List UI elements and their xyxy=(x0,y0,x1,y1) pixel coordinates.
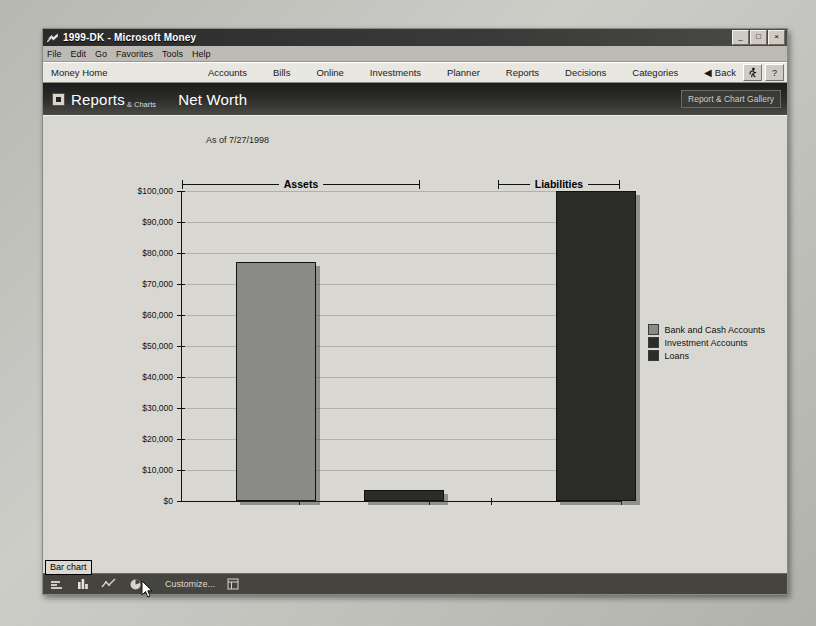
x-axis-tick xyxy=(491,498,492,505)
legend-swatch-icon xyxy=(648,337,659,348)
report-table-icon[interactable] xyxy=(225,578,241,591)
bar-chart-glyph xyxy=(50,579,64,590)
nav-decisions[interactable]: Decisions xyxy=(565,67,606,78)
chart-subtitle: As of 7/27/1998 xyxy=(206,135,269,145)
menu-help[interactable]: Help xyxy=(192,49,211,59)
y-axis-tick xyxy=(177,284,185,285)
close-button[interactable]: × xyxy=(768,30,785,45)
nav-reports[interactable]: Reports xyxy=(506,67,539,78)
menu-file[interactable]: File xyxy=(47,49,62,59)
nav-online[interactable]: Online xyxy=(316,67,343,78)
nav-investments[interactable]: Investments xyxy=(370,67,421,78)
y-axis-label: $50,000 xyxy=(103,341,173,351)
minimize-button[interactable]: _ xyxy=(732,30,749,45)
chart-legend: Bank and Cash AccountsInvestment Account… xyxy=(648,324,765,363)
y-axis-tick xyxy=(177,501,185,502)
y-axis-tick xyxy=(177,377,185,378)
group-label-liabilities: Liabilities xyxy=(530,178,588,190)
y-axis-label: $10,000 xyxy=(103,465,173,475)
mouse-cursor xyxy=(141,580,153,600)
y-axis-label: $80,000 xyxy=(103,248,173,258)
bracket-line-right xyxy=(588,184,619,185)
y-axis-label: $40,000 xyxy=(103,372,173,382)
title-bar: 1999-DK - Microsoft Money _ □ × xyxy=(43,29,787,46)
bracket-line-left xyxy=(499,184,530,185)
chart-type-toolbar: Bar chart xyxy=(43,573,787,594)
legend-item[interactable]: Bank and Cash Accounts xyxy=(648,324,765,335)
bracket-line-left xyxy=(183,184,279,185)
nav-categories[interactable]: Categories xyxy=(632,67,678,78)
y-axis-tick xyxy=(177,408,185,409)
navigation-bar: Money Home Accounts Bills Online Investm… xyxy=(43,62,787,83)
bar-chart-icon[interactable] xyxy=(49,578,65,591)
nav-accounts[interactable]: Accounts xyxy=(208,67,247,78)
y-axis-tick xyxy=(177,253,185,254)
maximize-button[interactable]: □ xyxy=(750,30,767,45)
group-bracket-assets: Assets xyxy=(182,178,420,190)
y-axis-label: $30,000 xyxy=(103,403,173,413)
y-axis-label: $60,000 xyxy=(103,310,173,320)
y-axis-tick xyxy=(177,191,185,192)
group-bracket-liabilities: Liabilities xyxy=(498,178,620,190)
expand-box-icon[interactable] xyxy=(52,93,65,106)
y-axis-label: $90,000 xyxy=(103,217,173,227)
gridline xyxy=(181,191,621,192)
money-logo-icon xyxy=(46,32,59,44)
line-chart-icon[interactable] xyxy=(101,578,117,591)
legend-swatch-icon xyxy=(648,350,659,361)
money-application-window: 1999-DK - Microsoft Money _ □ × File Edi… xyxy=(42,28,788,595)
nav-right-group: ◀ Back ? xyxy=(704,64,787,81)
column-chart-glyph xyxy=(76,578,90,590)
help-question-icon[interactable]: ? xyxy=(765,64,784,81)
legend-item[interactable]: Investment Accounts xyxy=(648,337,765,348)
menu-go[interactable]: Go xyxy=(95,49,107,59)
pie-chart-glyph xyxy=(129,578,142,591)
running-man-glyph xyxy=(747,67,758,78)
group-label-assets: Assets xyxy=(279,178,323,190)
report-table-glyph xyxy=(227,578,239,590)
legend-label: Loans xyxy=(664,351,689,361)
chart-canvas: As of 7/27/1998 Assets Liabilities $0$10… xyxy=(43,115,787,573)
bracket-cap-right xyxy=(619,180,620,189)
plot-area: $0$10,000$20,000$30,000$40,000$50,000$60… xyxy=(181,191,787,573)
y-axis-label: $100,000 xyxy=(103,186,173,196)
tooltip-bar-chart: Bar chart xyxy=(45,560,92,575)
bracket-line-right xyxy=(323,184,419,185)
nav-money-home[interactable]: Money Home xyxy=(43,67,208,78)
y-axis-tick xyxy=(177,470,185,471)
page-title: Net Worth xyxy=(178,91,247,108)
bar-bank-and-cash-accounts[interactable] xyxy=(236,262,316,501)
column-chart-icon[interactable] xyxy=(75,578,91,591)
gridline xyxy=(181,253,621,254)
gridline xyxy=(181,222,621,223)
menu-tools[interactable]: Tools xyxy=(162,49,183,59)
nav-planner[interactable]: Planner xyxy=(447,67,480,78)
menu-edit[interactable]: Edit xyxy=(71,49,87,59)
y-axis-tick xyxy=(177,439,185,440)
back-button[interactable]: ◀ Back xyxy=(704,67,736,78)
window-controls: _ □ × xyxy=(732,30,785,45)
banner-section-label: Reports xyxy=(71,91,125,108)
running-man-icon[interactable] xyxy=(743,64,762,81)
menu-favorites[interactable]: Favorites xyxy=(116,49,153,59)
menu-bar: File Edit Go Favorites Tools Help xyxy=(43,46,787,62)
report-and-chart-gallery-button[interactable]: Report & Chart Gallery xyxy=(681,90,781,108)
bracket-cap-right xyxy=(419,180,420,189)
line-chart-glyph xyxy=(101,578,117,590)
y-axis-tick xyxy=(177,222,185,223)
legend-item[interactable]: Loans xyxy=(648,350,765,361)
banner-section-sublabel: & Charts xyxy=(127,100,156,109)
legend-label: Bank and Cash Accounts xyxy=(664,325,765,335)
bar-loans[interactable] xyxy=(556,191,636,501)
page-banner: Reports & Charts Net Worth Report & Char… xyxy=(43,83,787,115)
y-axis-label: $20,000 xyxy=(103,434,173,444)
customize-button[interactable]: Customize... xyxy=(165,579,215,589)
nav-bills[interactable]: Bills xyxy=(273,67,290,78)
legend-swatch-icon xyxy=(648,324,659,335)
y-axis-tick xyxy=(177,315,185,316)
y-axis-label: $70,000 xyxy=(103,279,173,289)
y-axis-label: $0 xyxy=(103,496,173,506)
legend-label: Investment Accounts xyxy=(664,338,747,348)
window-title: 1999-DK - Microsoft Money xyxy=(63,32,196,43)
bar-investment-accounts[interactable] xyxy=(364,490,444,501)
